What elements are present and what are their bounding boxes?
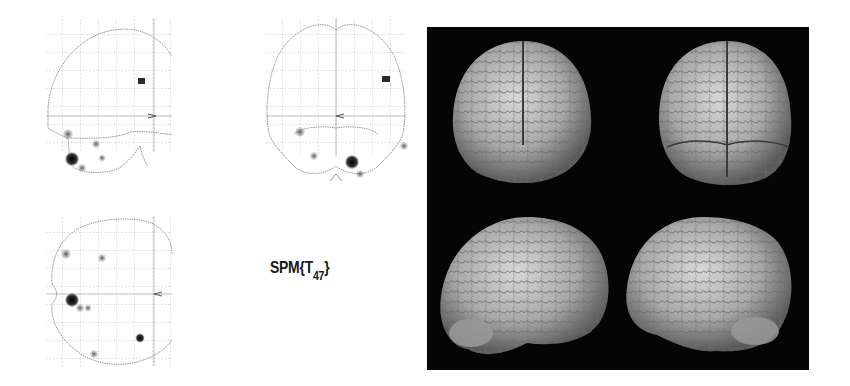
brain-right-lateral <box>440 217 608 354</box>
statistic-label: SPM{T47} <box>270 258 329 283</box>
glass-brain-axial <box>44 214 174 372</box>
brain-anterior <box>453 41 591 183</box>
brain-posterior <box>659 41 791 185</box>
glass-brain-coronal <box>264 16 408 181</box>
glass-brain-sagittal <box>44 16 174 174</box>
render-panel <box>427 27 809 370</box>
brain-left-lateral <box>626 217 791 351</box>
